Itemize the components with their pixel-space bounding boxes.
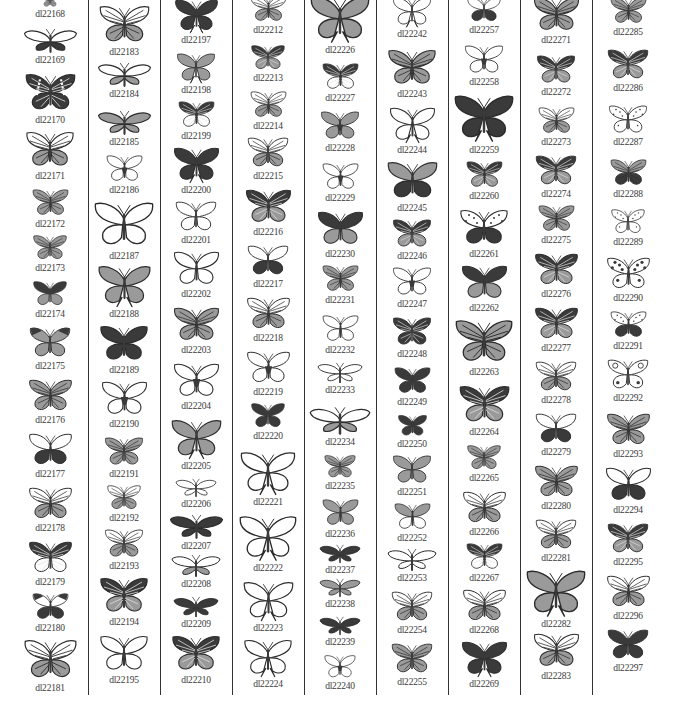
butterfly-clipart-dl22294[interactable]: dl22294 [596, 466, 660, 515]
butterfly-clipart-dl22245[interactable]: dl22245 [380, 160, 444, 213]
butterfly-clipart-dl22292[interactable]: dl22292 [596, 358, 660, 403]
butterfly-clipart-dl22280[interactable]: dl22280 [524, 464, 588, 511]
butterfly-clipart-dl22230[interactable]: dl22230 [308, 210, 372, 259]
butterfly-clipart-dl22186[interactable]: dl22186 [92, 154, 156, 195]
butterfly-clipart-dl22192[interactable]: dl22192 [92, 484, 156, 523]
butterfly-clipart-dl22252[interactable]: dl22252 [380, 502, 444, 543]
butterfly-clipart-dl22261[interactable]: dl22261 [452, 208, 516, 259]
butterfly-clipart-dl22201[interactable]: dl22201 [164, 200, 228, 245]
butterfly-clipart-dl22185[interactable]: dl22185 [92, 110, 156, 147]
butterfly-clipart-dl22282[interactable]: dl22282 [524, 568, 588, 629]
butterfly-clipart-dl22198[interactable]: dl22198 [164, 52, 228, 95]
butterfly-clipart-dl22290[interactable]: dl22290 [596, 256, 660, 303]
butterfly-clipart-dl22223[interactable]: dl22223 [236, 580, 300, 633]
butterfly-clipart-dl22190[interactable]: dl22190 [92, 380, 156, 429]
butterfly-clipart-dl22218[interactable]: dl22218 [236, 296, 300, 343]
butterfly-clipart-dl22169[interactable]: dl22169 [18, 28, 82, 65]
butterfly-clipart-dl22187[interactable]: dl22187 [92, 200, 156, 261]
butterfly-clipart-dl22231[interactable]: dl22231 [308, 264, 372, 305]
butterfly-clipart-dl22229[interactable]: dl22229 [308, 162, 372, 203]
butterfly-clipart-dl22221[interactable]: dl22221 [236, 450, 300, 507]
butterfly-clipart-dl22177[interactable]: dl22177 [18, 432, 82, 479]
butterfly-clipart-dl22260[interactable]: dl22260 [452, 160, 516, 201]
butterfly-clipart-dl22295[interactable]: dl22295 [596, 522, 660, 567]
butterfly-clipart-dl22199[interactable]: dl22199 [164, 100, 228, 141]
butterfly-clipart-dl22285[interactable]: dl22285 [596, 0, 660, 37]
butterfly-clipart-dl22265[interactable]: dl22265 [452, 444, 516, 483]
butterfly-clipart-dl22279[interactable]: dl22279 [524, 412, 588, 457]
butterfly-clipart-dl22244[interactable]: dl22244 [380, 106, 444, 155]
butterfly-clipart-dl22286[interactable]: dl22286 [596, 48, 660, 93]
butterfly-clipart-dl22178[interactable]: dl22178 [18, 486, 82, 533]
butterfly-clipart-dl22274[interactable]: dl22274 [524, 154, 588, 199]
butterfly-clipart-dl22278[interactable]: dl22278 [524, 360, 588, 405]
butterfly-clipart-dl22240[interactable]: dl22240 [308, 654, 372, 691]
butterfly-clipart-dl22296[interactable]: dl22296 [596, 574, 660, 621]
butterfly-clipart-dl22184[interactable]: dl22184 [92, 62, 156, 99]
butterfly-clipart-dl22234[interactable]: dl22234 [308, 406, 372, 447]
butterfly-clipart-dl22249[interactable]: dl22249 [380, 366, 444, 407]
butterfly-clipart-dl22193[interactable]: dl22193 [92, 528, 156, 571]
butterfly-clipart-dl22213[interactable]: dl22213 [236, 44, 300, 83]
butterfly-clipart-dl22226[interactable]: dl22226 [308, 0, 372, 55]
butterfly-clipart-dl22263[interactable]: dl22263 [452, 318, 516, 377]
butterfly-clipart-dl22200[interactable]: dl22200 [164, 146, 228, 195]
butterfly-clipart-dl22253[interactable]: dl22253 [380, 548, 444, 583]
butterfly-clipart-dl22174[interactable]: dl22174 [18, 280, 82, 319]
butterfly-clipart-dl22266[interactable]: dl22266 [452, 490, 516, 537]
butterfly-clipart-dl22194[interactable]: dl22194 [92, 576, 156, 627]
butterfly-clipart-dl22264[interactable]: dl22264 [452, 384, 516, 437]
butterfly-clipart-dl22212[interactable]: dl22212 [236, 0, 300, 35]
butterfly-clipart-dl22275[interactable]: dl22275 [524, 204, 588, 245]
butterfly-clipart-dl22242[interactable]: dl22242 [380, 0, 444, 39]
butterfly-clipart-dl22248[interactable]: dl22248 [380, 316, 444, 359]
butterfly-clipart-dl22175[interactable]: dl22175 [18, 326, 82, 371]
butterfly-clipart-dl22170[interactable]: dl22170 [18, 72, 82, 125]
butterfly-clipart-dl22283[interactable]: dl22283 [524, 632, 588, 681]
butterfly-clipart-dl22215[interactable]: dl22215 [236, 136, 300, 181]
butterfly-clipart-dl22273[interactable]: dl22273 [524, 106, 588, 147]
butterfly-clipart-dl22224[interactable]: dl22224 [236, 638, 300, 689]
butterfly-clipart-dl22250[interactable]: dl22250 [380, 414, 444, 449]
butterfly-clipart-dl22180[interactable]: dl22180 [18, 592, 82, 633]
butterfly-clipart-dl22168[interactable]: dl22168 [18, 0, 82, 19]
butterfly-clipart-dl22197[interactable]: dl22197 [164, 0, 228, 45]
butterfly-clipart-dl22255[interactable]: dl22255 [380, 642, 444, 687]
butterfly-clipart-dl22191[interactable]: dl22191 [92, 436, 156, 479]
butterfly-clipart-dl22172[interactable]: dl22172 [18, 188, 82, 229]
butterfly-clipart-dl22254[interactable]: dl22254 [380, 590, 444, 635]
butterfly-clipart-dl22176[interactable]: dl22176 [18, 378, 82, 425]
butterfly-clipart-dl22222[interactable]: dl22222 [236, 514, 300, 573]
butterfly-clipart-dl22189[interactable]: dl22189 [92, 324, 156, 375]
butterfly-clipart-dl22239[interactable]: dl22239 [308, 616, 372, 647]
butterfly-clipart-dl22217[interactable]: dl22217 [236, 244, 300, 289]
butterfly-clipart-dl22287[interactable]: dl22287 [596, 104, 660, 147]
butterfly-clipart-dl22267[interactable]: dl22267 [452, 542, 516, 583]
butterfly-clipart-dl22277[interactable]: dl22277 [524, 306, 588, 353]
butterfly-clipart-dl22281[interactable]: dl22281 [524, 518, 588, 563]
butterfly-clipart-dl22227[interactable]: dl22227 [308, 62, 372, 103]
butterfly-clipart-dl22236[interactable]: dl22236 [308, 498, 372, 539]
butterfly-clipart-dl22181[interactable]: dl22181 [18, 638, 82, 693]
butterfly-clipart-dl22209[interactable]: dl22209 [164, 596, 228, 629]
butterfly-clipart-dl22268[interactable]: dl22268 [452, 588, 516, 635]
butterfly-clipart-dl22297[interactable]: dl22297 [596, 628, 660, 673]
butterfly-clipart-dl22276[interactable]: dl22276 [524, 252, 588, 299]
butterfly-clipart-dl22206[interactable]: dl22206 [164, 478, 228, 509]
butterfly-clipart-dl22238[interactable]: dl22238 [308, 578, 372, 609]
butterfly-clipart-dl22257[interactable]: dl22257 [452, 0, 516, 35]
butterfly-clipart-dl22195[interactable]: dl22195 [92, 634, 156, 685]
butterfly-clipart-dl22262[interactable]: dl22262 [452, 264, 516, 313]
butterfly-clipart-dl22188[interactable]: dl22188 [92, 264, 156, 319]
butterfly-clipart-dl22259[interactable]: dl22259 [452, 92, 516, 155]
butterfly-clipart-dl22220[interactable]: dl22220 [236, 402, 300, 441]
butterfly-clipart-dl22214[interactable]: dl22214 [236, 90, 300, 131]
butterfly-clipart-dl22288[interactable]: dl22288 [596, 158, 660, 199]
butterfly-clipart-dl22171[interactable]: dl22171 [18, 130, 82, 181]
butterfly-clipart-dl22247[interactable]: dl22247 [380, 266, 444, 309]
butterfly-clipart-dl22272[interactable]: dl22272 [524, 54, 588, 97]
butterfly-clipart-dl22271[interactable]: dl22271 [524, 0, 588, 45]
butterfly-clipart-dl22219[interactable]: dl22219 [236, 350, 300, 397]
butterfly-clipart-dl22173[interactable]: dl22173 [18, 234, 82, 273]
butterfly-clipart-dl22207[interactable]: dl22207 [164, 514, 228, 551]
